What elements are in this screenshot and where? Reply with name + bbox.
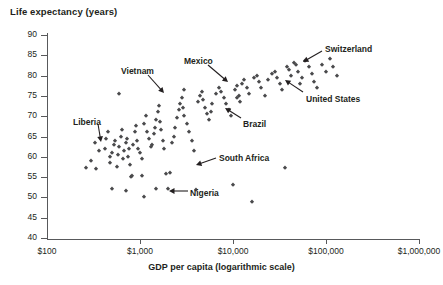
- data-point: [160, 138, 165, 143]
- annotation-arrow: [219, 102, 247, 124]
- data-point: [262, 93, 267, 98]
- annotation-arrow: [297, 45, 328, 68]
- x-tick: [140, 239, 141, 244]
- annotation-arrow: [92, 118, 107, 148]
- data-point: [123, 189, 128, 194]
- data-point: [247, 91, 252, 96]
- data-point: [94, 167, 99, 172]
- data-point: [117, 91, 122, 96]
- y-tick: [41, 197, 47, 198]
- data-point: [272, 69, 277, 74]
- data-point: [210, 102, 215, 107]
- data-point: [287, 67, 292, 72]
- data-point: [140, 173, 145, 178]
- y-tick: [41, 96, 47, 97]
- data-point: [161, 146, 166, 151]
- annotation-label-united-states: United States: [306, 94, 360, 104]
- data-point: [141, 195, 146, 200]
- data-point: [154, 187, 159, 192]
- y-tick: [41, 157, 47, 158]
- data-point: [120, 128, 125, 133]
- x-tick: [233, 239, 234, 244]
- data-point: [113, 138, 118, 143]
- data-point: [206, 118, 211, 123]
- data-point: [234, 83, 239, 88]
- data-point: [182, 114, 187, 119]
- data-point: [145, 130, 150, 135]
- x-tick: [419, 239, 420, 244]
- y-tick-label: 90: [5, 29, 37, 39]
- data-point: [138, 150, 143, 155]
- data-point: [143, 114, 148, 119]
- y-tick-label: 80: [5, 70, 37, 80]
- data-point: [135, 138, 140, 143]
- x-tick-label: $10,000: [218, 246, 249, 256]
- data-point: [259, 85, 264, 90]
- data-point: [153, 126, 158, 131]
- data-point: [110, 187, 115, 192]
- y-tick: [41, 238, 47, 239]
- data-point: [159, 128, 164, 133]
- data-point: [127, 146, 132, 151]
- data-point: [96, 148, 101, 153]
- data-point: [309, 71, 314, 76]
- x-tick: [326, 239, 327, 244]
- data-point: [110, 150, 115, 155]
- y-tick: [41, 116, 47, 117]
- data-point: [175, 116, 180, 121]
- y-tick-label: 45: [5, 212, 37, 222]
- data-point: [83, 166, 88, 171]
- data-point: [125, 154, 130, 159]
- data-point: [140, 156, 145, 161]
- y-tick: [41, 76, 47, 77]
- annotation-label-south-africa: South Africa: [219, 153, 269, 163]
- data-point: [203, 106, 208, 111]
- annotation-arrow: [163, 185, 194, 197]
- data-point: [128, 163, 133, 168]
- data-point: [312, 79, 317, 84]
- annotation-arrow: [190, 152, 222, 171]
- data-point: [155, 110, 160, 115]
- y-tick-label: 50: [5, 191, 37, 201]
- data-point: [131, 142, 136, 147]
- y-tick: [41, 177, 47, 178]
- data-point: [196, 100, 201, 105]
- data-point: [213, 91, 218, 96]
- y-tick-label: 85: [5, 49, 37, 59]
- y-axis-title: Life expectancy (years): [10, 6, 117, 17]
- x-tick-label: $1,000,000: [398, 246, 441, 256]
- y-tick: [41, 137, 47, 138]
- data-point: [244, 85, 249, 90]
- data-point: [124, 136, 129, 141]
- data-point: [189, 138, 194, 143]
- data-point: [257, 79, 262, 84]
- y-tick-label: 40: [5, 232, 37, 242]
- data-point: [327, 57, 332, 62]
- data-point: [182, 87, 187, 92]
- data-point: [334, 73, 339, 78]
- data-point: [117, 144, 122, 149]
- data-point: [116, 152, 121, 157]
- annotation-label-switzerland: Switzerland: [325, 44, 372, 54]
- y-tick-label: 75: [5, 90, 37, 100]
- data-point: [158, 120, 163, 125]
- data-point: [157, 104, 162, 109]
- y-tick: [41, 35, 47, 36]
- data-point: [151, 132, 156, 137]
- data-point: [173, 126, 178, 131]
- data-point: [187, 130, 192, 135]
- x-tick-label: $100: [38, 246, 57, 256]
- y-tick-label: 70: [5, 110, 37, 120]
- data-point: [132, 130, 137, 135]
- data-point: [250, 200, 255, 205]
- annotation-arrow: [279, 74, 309, 98]
- data-point: [169, 140, 174, 145]
- data-point: [185, 122, 190, 127]
- y-tick-label: 55: [5, 171, 37, 181]
- annotation-arrow: [202, 59, 234, 88]
- data-point: [171, 134, 176, 139]
- data-point: [331, 65, 336, 70]
- annotation-label-nigeria: Nigeria: [190, 188, 219, 198]
- data-point: [108, 160, 113, 165]
- data-point: [201, 98, 206, 103]
